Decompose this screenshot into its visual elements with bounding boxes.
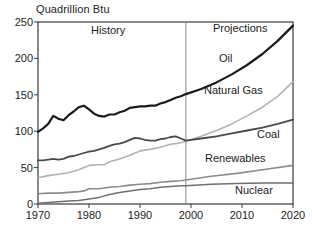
series-label-oil: Oil [219, 52, 232, 64]
series-label-renewables: Renewables [205, 152, 266, 164]
y-tick-label: 0 [0, 198, 33, 210]
x-tick-label: 2010 [225, 209, 259, 221]
x-tick-label: 1970 [21, 209, 55, 221]
y-tick-label: 200 [0, 52, 33, 64]
series-label-nuclear: Nuclear [235, 184, 273, 196]
x-tick-label: 1980 [72, 209, 106, 221]
line-chart-canvas [0, 0, 312, 237]
x-tick-label: 2000 [174, 209, 208, 221]
series-label-coal: Coal [257, 128, 280, 140]
y-tick-label: 250 [0, 16, 33, 28]
x-tick-label: 1990 [123, 209, 157, 221]
energy-outlook-chart: Quadrillion Btu History Projections Oil … [0, 0, 312, 237]
y-tick-label: 100 [0, 125, 33, 137]
y-tick-label: 150 [0, 89, 33, 101]
projections-region-label: Projections [213, 22, 267, 34]
history-region-label: History [91, 24, 125, 36]
y-tick-label: 50 [0, 162, 33, 174]
x-tick-label: 2020 [276, 209, 310, 221]
series-label-natural-gas: Natural Gas [204, 84, 263, 96]
